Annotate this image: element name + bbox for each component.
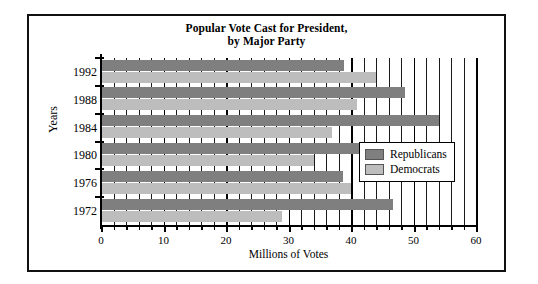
x-axis-tick bbox=[264, 225, 266, 230]
x-axis-tick bbox=[389, 225, 391, 230]
y-axis-tick-label-1984: 1984 bbox=[51, 122, 97, 134]
x-axis-tick bbox=[189, 225, 191, 230]
bar-republicans-1992 bbox=[101, 60, 344, 71]
chart-title: Popular Vote Cast for President, by Majo… bbox=[29, 22, 504, 48]
bar-democrats-1988 bbox=[101, 99, 357, 110]
y-axis-tick bbox=[95, 113, 104, 115]
x-axis-tick-label: 20 bbox=[206, 234, 246, 246]
x-axis-tick-label: 10 bbox=[144, 234, 184, 246]
x-axis-tick bbox=[414, 225, 416, 232]
x-axis-title: Millions of Votes bbox=[101, 248, 476, 260]
x-axis-tick bbox=[276, 225, 278, 230]
chart-legend: Republicans Democrats bbox=[359, 142, 455, 182]
y-axis-tick-label-1988: 1988 bbox=[51, 94, 97, 106]
x-axis-tick bbox=[439, 225, 441, 230]
x-axis-tick bbox=[114, 225, 116, 230]
x-axis-tick-label: 60 bbox=[456, 234, 496, 246]
y-axis-tick bbox=[95, 196, 104, 198]
y-axis-tick bbox=[95, 85, 104, 87]
x-axis-tick bbox=[289, 225, 291, 232]
bar-republicans-1972 bbox=[101, 199, 393, 210]
x-axis-tick bbox=[451, 225, 453, 230]
x-axis-tick bbox=[164, 225, 166, 232]
y-axis-tick-label-1992: 1992 bbox=[51, 66, 97, 78]
bar-democrats-1972 bbox=[101, 211, 282, 222]
bar-democrats-1976 bbox=[101, 183, 351, 194]
chart-title-line1: Popular Vote Cast for President, bbox=[186, 22, 348, 34]
bar-democrats-1980 bbox=[101, 155, 314, 166]
x-axis-tick bbox=[214, 225, 216, 230]
y-axis-tick-label-1972: 1972 bbox=[51, 205, 97, 217]
x-axis-tick bbox=[426, 225, 428, 230]
y-axis-tick-label-1980: 1980 bbox=[51, 149, 97, 161]
y-axis-tick-label-1976: 1976 bbox=[51, 177, 97, 189]
y-axis-tick bbox=[95, 57, 104, 59]
x-axis-tick bbox=[176, 225, 178, 230]
legend-item-republicans: Republicans bbox=[365, 147, 447, 162]
legend-label-republicans: Republicans bbox=[390, 147, 447, 162]
legend-item-democrats: Democrats bbox=[365, 162, 447, 177]
x-axis-tick bbox=[251, 225, 253, 230]
x-axis-tick-label: 30 bbox=[269, 234, 309, 246]
x-axis-tick bbox=[101, 225, 103, 232]
x-axis-tick-label: 0 bbox=[81, 234, 121, 246]
x-axis-tick bbox=[339, 225, 341, 230]
x-axis-tick-label: 40 bbox=[331, 234, 371, 246]
x-axis-tick bbox=[126, 225, 128, 230]
bar-democrats-1984 bbox=[101, 127, 332, 138]
x-axis-tick bbox=[226, 225, 228, 232]
legend-swatch-democrats bbox=[365, 164, 384, 175]
x-axis-tick bbox=[364, 225, 366, 230]
x-axis-tick bbox=[376, 225, 378, 230]
bar-republicans-1976 bbox=[101, 171, 343, 182]
legend-swatch-republicans bbox=[365, 149, 384, 160]
y-axis-tick bbox=[95, 168, 104, 170]
x-axis-tick bbox=[314, 225, 316, 230]
grid-line bbox=[464, 58, 465, 225]
x-axis-tick-label: 50 bbox=[394, 234, 434, 246]
x-axis-tick bbox=[464, 225, 466, 230]
x-axis-tick bbox=[151, 225, 153, 230]
bar-democrats-1992 bbox=[101, 72, 376, 83]
bar-republicans-1988 bbox=[101, 87, 405, 98]
x-axis-tick bbox=[239, 225, 241, 230]
x-axis-tick bbox=[351, 225, 353, 232]
grid-line bbox=[476, 58, 478, 225]
x-axis-tick bbox=[201, 225, 203, 230]
y-axis-tick bbox=[95, 141, 104, 143]
x-axis-tick bbox=[476, 225, 478, 232]
x-axis-tick bbox=[326, 225, 328, 230]
x-axis-tick bbox=[301, 225, 303, 230]
y-axis-tick-labels: 199219881984198019761972 bbox=[45, 58, 97, 225]
bar-republicans-1984 bbox=[101, 115, 439, 126]
x-axis-tick bbox=[139, 225, 141, 230]
bar-republicans-1980 bbox=[101, 143, 376, 154]
x-axis-tick bbox=[401, 225, 403, 230]
chart-figure: Popular Vote Cast for President, by Majo… bbox=[27, 14, 506, 272]
chart-title-line2: by Major Party bbox=[29, 35, 504, 48]
legend-label-democrats: Democrats bbox=[390, 162, 440, 177]
